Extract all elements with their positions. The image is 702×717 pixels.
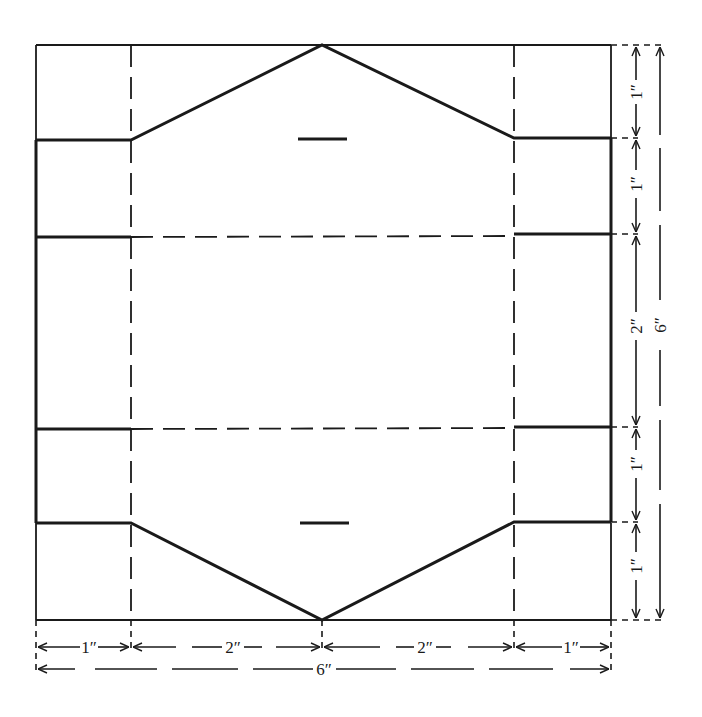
dim-label-total-height: 6″ [651, 317, 670, 333]
outline [36, 45, 611, 620]
dim-label-right-5: 1″ [627, 558, 646, 574]
cut-lines [36, 45, 611, 620]
dim-label-right-1: 1″ [627, 84, 646, 100]
fold-lines [131, 45, 514, 620]
top-hexagon-cut [36, 45, 611, 140]
dim-label-bottom-3: 2″ [417, 638, 433, 657]
dim-label-total-width: 6″ [316, 660, 332, 679]
upper-horizontal-fold [131, 236, 514, 237]
dim-label-bottom-1: 1″ [81, 638, 97, 657]
lower-horizontal-fold [131, 428, 514, 429]
bottom-hexagon-cut [36, 522, 611, 620]
dim-label-right-3: 2″ [627, 318, 646, 334]
dim-label-bottom-2: 2″ [225, 638, 241, 657]
dim-label-right-4: 1″ [627, 456, 646, 472]
box-template-diagram: 1″ 1″ 2″ 1″ 1″ 6″ 1″ 2″ 2″ 1″ [0, 0, 702, 717]
dim-label-bottom-4: 1″ [563, 638, 579, 657]
dim-label-right-2: 1″ [627, 176, 646, 192]
